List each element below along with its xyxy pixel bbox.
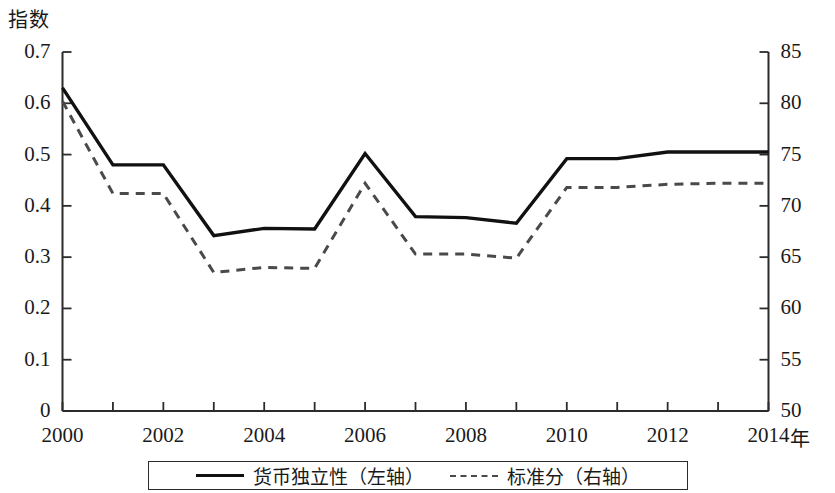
y-tick-label-left: 0.7 [24,41,50,62]
x-tick-label: 2004 [224,425,304,446]
x-tick-label: 2010 [527,425,607,446]
y-tick-label-left: 0.3 [24,246,50,267]
y-tick-label-left: 0.5 [24,144,50,165]
y-tick-label-right: 55 [781,349,802,370]
legend-label-standard-score: 标准分（右轴） [507,462,640,489]
x-tick-label: 2014 [729,425,809,446]
y-tick-label-right: 65 [781,246,802,267]
y-tick-label-right: 60 [781,297,802,318]
legend-line-solid-icon [196,474,244,477]
chart-legend: 货币独立性（左轴） 标准分（右轴） [148,461,688,490]
x-tick-label: 2002 [123,425,203,446]
y-tick-label-left: 0.2 [24,297,50,318]
plot-area [0,0,835,493]
y-tick-label-left: 0.6 [24,92,50,113]
y-tick-label-right: 85 [781,41,802,62]
x-tick-label: 2000 [23,425,103,446]
y-tick-label-right: 50 [781,400,802,421]
legend-item-standard-score: 标准分（右轴） [450,462,640,489]
y-tick-label-right: 75 [781,144,802,165]
y-tick-label-right: 80 [781,92,802,113]
y-tick-label-left: 0 [40,400,51,421]
y-tick-label-left: 0.4 [24,195,50,216]
chart-figure: 指数 年 00.10.20.30.40.50.60.7 505560657075… [0,0,835,493]
series-line-monetary-independence [63,88,769,236]
legend-label-monetary-independence: 货币独立性（左轴） [253,462,424,489]
series-line-standard-score [63,101,769,272]
x-tick-label: 2008 [426,425,506,446]
x-tick-label: 2012 [628,425,708,446]
legend-line-dashed-icon [450,475,498,477]
axes [63,52,769,411]
y-tick-label-left: 0.1 [24,349,50,370]
legend-item-monetary-independence: 货币独立性（左轴） [196,462,424,489]
y-tick-label-right: 70 [781,195,802,216]
data-series [63,88,769,273]
x-tick-label: 2006 [325,425,405,446]
